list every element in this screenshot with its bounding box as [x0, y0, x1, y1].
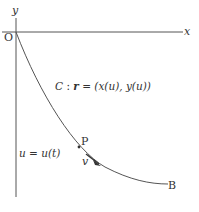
velocity-label: v	[82, 155, 89, 168]
curve-diagram: y x O C : r = (x(u), y(u)) P u = u(t) v …	[0, 0, 199, 212]
curve-colon: :	[63, 80, 73, 92]
curve-label: C : r = (x(u), y(u))	[55, 80, 151, 92]
end-point-b-label: B	[168, 179, 176, 192]
curve-name: C	[55, 80, 63, 92]
origin-label: O	[4, 31, 13, 44]
point-p-marker	[78, 146, 81, 149]
curve-c	[16, 32, 168, 184]
curve-equation: = (x(u), y(u))	[79, 80, 151, 92]
x-axis-label: x	[184, 25, 191, 38]
parameter-label: u = u(t)	[19, 147, 60, 159]
y-axis-label: y	[11, 4, 19, 17]
point-p-label: P	[81, 135, 89, 148]
